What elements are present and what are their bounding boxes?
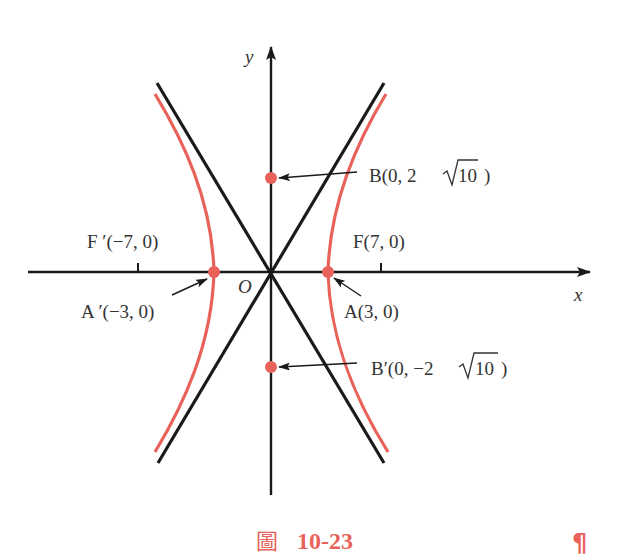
point-A <box>322 266 334 278</box>
focus-left-label: F ′(−7, 0) <box>87 231 158 253</box>
caption-number: 10-23 <box>297 528 353 554</box>
point-B <box>265 172 277 184</box>
vertex-right-label: A(3, 0) <box>344 301 399 323</box>
origin-label: O <box>238 276 252 297</box>
y-axis-label: y <box>243 46 254 67</box>
x-axis-label: x <box>573 284 583 305</box>
focus-right-label: F(7, 0) <box>353 231 405 253</box>
svg-text:B(0, 2: B(0, 2 <box>369 165 417 187</box>
svg-text:10: 10 <box>458 165 477 186</box>
hyperbola-figure: y x O F ′(−7, 0) F(7, 0) A ′(−3, 0) A(3,… <box>0 0 624 560</box>
svg-text:B′(0, −2: B′(0, −2 <box>371 358 433 380</box>
co-vertex-B-label: B(0, 2 10 ) <box>369 160 490 187</box>
point-A-prime <box>208 266 220 278</box>
co-vertex-B-prime-label: B′(0, −2 10 ) <box>371 353 507 380</box>
svg-text:): ) <box>484 165 490 187</box>
caption-prefix: 圖 <box>256 529 278 554</box>
svg-text:): ) <box>501 358 507 380</box>
pointer-arrow-A <box>334 278 361 296</box>
vertex-left-label: A ′(−3, 0) <box>81 301 154 323</box>
point-B-prime <box>265 361 277 373</box>
svg-text:10: 10 <box>475 358 494 379</box>
paragraph-mark: ¶ <box>572 529 587 557</box>
pointer-arrow-A-prime <box>172 279 207 295</box>
